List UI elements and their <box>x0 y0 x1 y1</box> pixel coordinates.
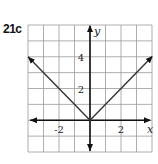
y-axis-label: y <box>93 25 101 38</box>
graph: -2224xy <box>0 0 158 164</box>
y-tick-label: 2 <box>78 84 84 95</box>
x-axis-label: x <box>147 123 154 136</box>
x-tick-label: -2 <box>54 124 64 135</box>
y-tick-label: 4 <box>78 52 84 63</box>
x-tick-label: 2 <box>118 124 124 135</box>
